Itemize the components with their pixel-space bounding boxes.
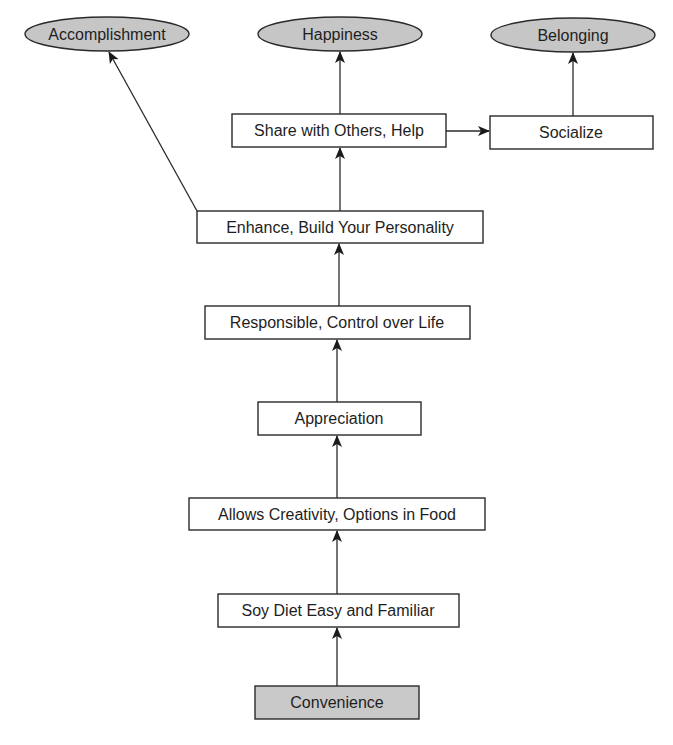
node-label: Allows Creativity, Options in Food: [218, 506, 456, 523]
node-label: Responsible, Control over Life: [230, 314, 444, 331]
node-soy-diet: Soy Diet Easy and Familiar: [218, 594, 459, 627]
node-label: Enhance, Build Your Personality: [226, 219, 454, 236]
node-convenience: Convenience: [255, 686, 419, 719]
node-label: Socialize: [539, 124, 603, 141]
node-accomplishment: Accomplishment: [25, 17, 189, 51]
node-label: Convenience: [290, 694, 384, 711]
node-belonging: Belonging: [491, 18, 655, 52]
node-responsible: Responsible, Control over Life: [205, 306, 470, 339]
node-appreciation: Appreciation: [258, 402, 421, 435]
node-socialize: Socialize: [490, 116, 653, 149]
edge-enhance-to-accomplishment: [109, 52, 197, 211]
means-end-diagram: Accomplishment Happiness Belonging Share…: [0, 0, 673, 745]
node-enhance: Enhance, Build Your Personality: [197, 211, 483, 243]
node-label: Appreciation: [295, 410, 384, 427]
node-share: Share with Others, Help: [232, 114, 446, 147]
node-label: Happiness: [302, 26, 378, 43]
node-creativity: Allows Creativity, Options in Food: [189, 498, 485, 530]
node-label: Soy Diet Easy and Familiar: [242, 602, 436, 619]
node-label: Accomplishment: [48, 26, 166, 43]
node-label: Belonging: [537, 27, 608, 44]
node-happiness: Happiness: [258, 17, 422, 51]
node-label: Share with Others, Help: [254, 122, 424, 139]
